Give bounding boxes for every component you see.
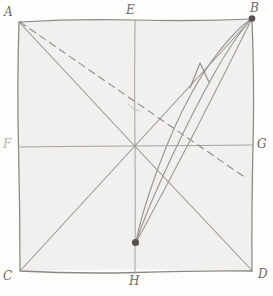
geometry-figure: A E B F G C H D [0, 0, 273, 296]
vertex-label-H: H [129, 275, 139, 287]
point-marker-P [132, 239, 139, 246]
vertex-label-C: C [3, 270, 12, 282]
figure-canvas [0, 0, 273, 296]
vertex-label-D: D [258, 268, 268, 280]
vertex-label-A: A [4, 6, 13, 18]
point-marker-B [249, 15, 256, 22]
side-bottom-CD [20, 271, 252, 273]
vertex-label-G: G [257, 138, 267, 150]
vertex-label-F: F [3, 138, 11, 150]
vertex-label-E: E [126, 4, 135, 16]
vertex-label-B: B [250, 2, 259, 14]
